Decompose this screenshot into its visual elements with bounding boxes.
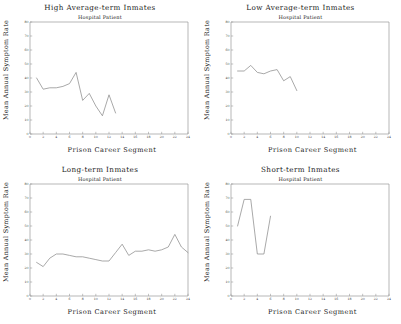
svg-text:12: 12	[308, 297, 312, 301]
svg-text:20: 20	[360, 135, 364, 139]
svg-text:40: 40	[25, 76, 29, 80]
svg-text:10: 10	[294, 135, 298, 139]
svg-text:14: 14	[321, 297, 325, 301]
svg-text:6: 6	[69, 135, 71, 139]
svg-text:16: 16	[334, 297, 338, 301]
svg-text:20: 20	[160, 297, 164, 301]
svg-text:4: 4	[55, 297, 57, 301]
svg-text:50: 50	[25, 224, 29, 228]
svg-text:20: 20	[225, 104, 229, 108]
svg-text:20: 20	[25, 104, 29, 108]
svg-text:80: 80	[225, 20, 229, 24]
svg-text:0: 0	[227, 294, 229, 298]
svg-text:24: 24	[387, 135, 391, 139]
svg-text:20: 20	[225, 266, 229, 270]
y-axis-label: Mean Annual Symptom Rate	[2, 184, 12, 282]
svg-text:2: 2	[42, 297, 44, 301]
panel-subtitle: Hospital Patient	[201, 176, 401, 182]
svg-text:22: 22	[373, 297, 377, 301]
svg-text:30: 30	[225, 90, 229, 94]
svg-text:0: 0	[29, 135, 31, 139]
svg-text:12: 12	[308, 135, 312, 139]
svg-text:40: 40	[25, 238, 29, 242]
x-axis-label: Prison Career Segment	[231, 146, 395, 154]
chart-panel-high-average-term: High Average-term Inmates Hospital Patie…	[0, 0, 200, 162]
svg-text:10: 10	[294, 297, 298, 301]
svg-text:70: 70	[225, 196, 229, 200]
svg-text:2: 2	[243, 297, 245, 301]
svg-text:4: 4	[55, 135, 57, 139]
svg-text:10: 10	[25, 280, 29, 284]
series-line	[37, 234, 188, 266]
svg-text:40: 40	[225, 238, 229, 242]
svg-text:20: 20	[160, 135, 164, 139]
y-axis-label: Mean Annual Symptom Rate	[2, 22, 12, 120]
x-axis-label: Prison Career Segment	[30, 146, 194, 154]
series-line	[237, 65, 296, 90]
svg-text:4: 4	[256, 297, 258, 301]
svg-text:8: 8	[82, 135, 84, 139]
svg-text:14: 14	[120, 135, 124, 139]
panel-title: Short-term Inmates	[201, 165, 401, 174]
panel-subtitle: Hospital Patient	[0, 176, 200, 182]
svg-text:24: 24	[186, 297, 190, 301]
panel-subtitle: Hospital Patient	[201, 14, 401, 20]
svg-text:18: 18	[147, 135, 151, 139]
svg-text:0: 0	[27, 132, 29, 136]
svg-text:30: 30	[225, 252, 229, 256]
svg-text:24: 24	[387, 297, 391, 301]
panel-subtitle: Hospital Patient	[0, 14, 200, 20]
svg-text:50: 50	[225, 224, 229, 228]
svg-text:80: 80	[25, 20, 29, 24]
svg-text:70: 70	[25, 34, 29, 38]
svg-text:4: 4	[256, 135, 258, 139]
y-axis-label: Mean Annual Symptom Rate	[203, 22, 213, 120]
x-axis-label: Prison Career Segment	[30, 308, 194, 316]
svg-text:10: 10	[94, 297, 98, 301]
svg-text:20: 20	[360, 297, 364, 301]
svg-text:40: 40	[225, 76, 229, 80]
svg-text:70: 70	[25, 196, 29, 200]
panel-title: High Average-term Inmates	[0, 3, 200, 12]
svg-text:6: 6	[269, 135, 271, 139]
svg-text:10: 10	[94, 135, 98, 139]
svg-text:30: 30	[25, 90, 29, 94]
panel-title: Low Average-term Inmates	[201, 3, 401, 12]
svg-text:30: 30	[25, 252, 29, 256]
svg-text:24: 24	[186, 135, 190, 139]
svg-text:8: 8	[282, 297, 284, 301]
svg-text:22: 22	[373, 135, 377, 139]
svg-text:70: 70	[225, 34, 229, 38]
panel-title: Long-term Inmates	[0, 165, 200, 174]
chart-panel-long-term: Long-term Inmates Hospital Patient Mean …	[0, 162, 200, 324]
svg-text:0: 0	[227, 132, 229, 136]
svg-text:22: 22	[173, 135, 177, 139]
plot-area: 02468101214161820222401020304050607080	[30, 22, 188, 134]
svg-text:80: 80	[225, 182, 229, 186]
svg-text:0: 0	[230, 135, 232, 139]
svg-text:8: 8	[282, 135, 284, 139]
x-axis-label: Prison Career Segment	[231, 308, 395, 316]
svg-text:10: 10	[225, 280, 229, 284]
svg-text:0: 0	[29, 297, 31, 301]
svg-text:6: 6	[269, 297, 271, 301]
svg-text:50: 50	[25, 62, 29, 66]
svg-text:12: 12	[107, 135, 111, 139]
y-axis-label: Mean Annual Symptom Rate	[203, 184, 213, 282]
svg-text:12: 12	[107, 297, 111, 301]
svg-text:18: 18	[347, 297, 351, 301]
svg-text:14: 14	[321, 135, 325, 139]
svg-text:16: 16	[133, 297, 137, 301]
chart-grid: High Average-term Inmates Hospital Patie…	[0, 0, 401, 324]
plot-area: 02468101214161820222401020304050607080	[231, 184, 389, 296]
svg-text:18: 18	[347, 135, 351, 139]
series-line	[37, 72, 116, 115]
svg-text:50: 50	[225, 62, 229, 66]
plot-area: 02468101214161820222401020304050607080	[231, 22, 389, 134]
svg-text:60: 60	[225, 210, 229, 214]
chart-panel-low-average-term: Low Average-term Inmates Hospital Patien…	[201, 0, 401, 162]
svg-text:14: 14	[120, 297, 124, 301]
plot-area: 02468101214161820222401020304050607080	[30, 184, 188, 296]
svg-text:20: 20	[25, 266, 29, 270]
svg-text:0: 0	[27, 294, 29, 298]
